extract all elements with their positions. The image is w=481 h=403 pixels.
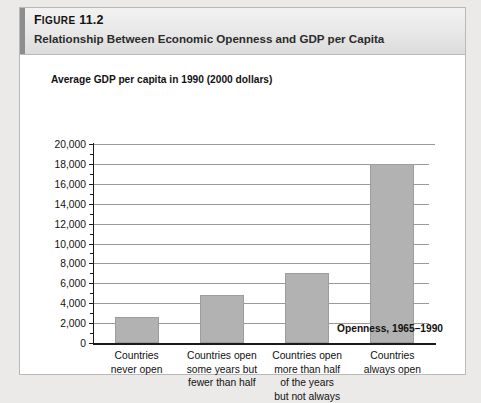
y-axis-tick-label: 10,000 xyxy=(55,238,87,249)
x-axis-category-label: Countries openmore than halfof the years… xyxy=(261,349,354,403)
category-label-line: but not always xyxy=(261,390,354,403)
y-axis-minor-tick xyxy=(90,234,94,235)
chart-body: Average GDP per capita in 1990 (2000 dol… xyxy=(20,55,465,375)
category-label-line: Countries open xyxy=(261,349,354,363)
figure-header: FIGURE 11.2 Relationship Between Economi… xyxy=(20,8,465,55)
y-axis-tick xyxy=(89,323,94,324)
figure-subtitle: Relationship Between Economic Openness a… xyxy=(34,31,459,47)
x-axis-line xyxy=(93,343,436,345)
category-label-line: of the years xyxy=(261,376,354,390)
bar xyxy=(285,273,329,343)
y-axis-tick-label: 6,000 xyxy=(60,278,86,289)
y-axis-tick xyxy=(89,204,94,205)
header-accent-bar xyxy=(20,8,25,54)
y-axis-tick-label: 2,000 xyxy=(60,318,86,329)
y-axis-tick xyxy=(89,283,94,284)
bar xyxy=(370,164,414,343)
y-axis-minor-tick xyxy=(90,333,94,334)
category-label-line: more than half xyxy=(261,363,354,377)
y-axis-tick xyxy=(89,184,94,185)
y-axis-title: Average GDP per capita in 1990 (2000 dol… xyxy=(51,74,272,85)
bar xyxy=(200,295,244,343)
figure-panel: FIGURE 11.2 Relationship Between Economi… xyxy=(19,7,466,375)
y-axis-tick-label: 12,000 xyxy=(55,218,87,229)
figure-header-text: FIGURE 11.2 Relationship Between Economi… xyxy=(34,12,459,47)
y-axis-minor-tick xyxy=(90,154,94,155)
category-label-line: Countries xyxy=(346,349,439,363)
y-axis-tick-label: 14,000 xyxy=(55,198,87,209)
bar xyxy=(115,317,159,343)
category-label-line: Countries xyxy=(90,349,183,363)
y-axis-minor-tick xyxy=(90,273,94,274)
y-axis-tick xyxy=(89,303,94,304)
y-axis-tick-label: 8,000 xyxy=(60,258,86,269)
x-axis-caption: Openness, 1965–1990 xyxy=(337,323,443,334)
y-axis-tick-label: 0 xyxy=(80,338,86,349)
figure-label: FIGURE 11.2 xyxy=(34,12,459,29)
figure-label-number: 11.2 xyxy=(79,13,103,27)
category-label-line: always open xyxy=(346,363,439,377)
category-label-line: fewer than half xyxy=(175,376,268,390)
x-axis-category-label: Countriesnever open xyxy=(90,349,183,376)
plot-area: 20,00018,00016,00014,00012,00010,0008,00… xyxy=(94,144,435,343)
y-axis-tick xyxy=(89,144,94,145)
x-axis-category-label: Countriesalways open xyxy=(346,349,439,376)
y-axis-tick xyxy=(89,263,94,264)
y-axis-tick xyxy=(89,224,94,225)
category-label-line: some years but xyxy=(175,363,268,377)
y-axis-minor-tick xyxy=(90,293,94,294)
x-axis-category-label: Countries opensome years butfewer than h… xyxy=(175,349,268,390)
y-axis-tick xyxy=(89,343,94,344)
y-axis-tick xyxy=(89,164,94,165)
category-label-line: Countries open xyxy=(175,349,268,363)
figure-label-prefix: F xyxy=(34,13,42,27)
y-axis-minor-tick xyxy=(90,253,94,254)
y-axis-tick-label: 20,000 xyxy=(55,139,87,150)
y-axis-minor-tick xyxy=(90,174,94,175)
y-axis-tick xyxy=(89,244,94,245)
category-label-line: never open xyxy=(90,363,183,377)
gridline xyxy=(94,144,435,145)
figure-label-rest: IGURE xyxy=(42,15,76,26)
y-axis-minor-tick xyxy=(90,194,94,195)
y-axis-tick-label: 16,000 xyxy=(55,178,87,189)
y-axis-tick-label: 4,000 xyxy=(60,298,86,309)
y-axis-minor-tick xyxy=(90,214,94,215)
y-axis-minor-tick xyxy=(90,313,94,314)
y-axis-tick-label: 18,000 xyxy=(55,158,87,169)
